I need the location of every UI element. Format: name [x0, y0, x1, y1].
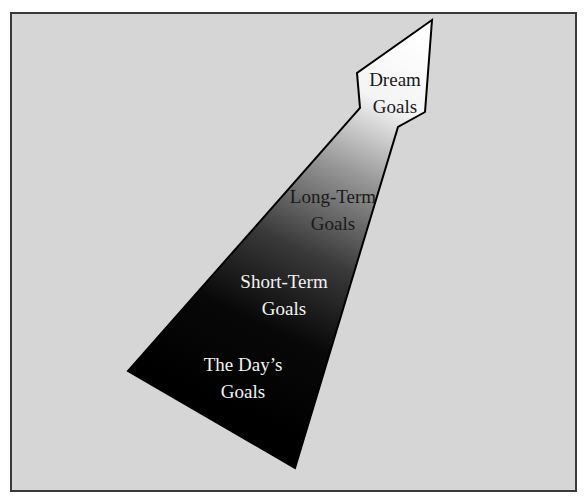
label-line-1: Dream: [369, 66, 421, 93]
goal-arrow-shape: [0, 0, 588, 504]
label-line-1: Short-Term: [240, 268, 327, 295]
label-line-2: Goals: [204, 378, 283, 405]
label-line-1: Long-Term: [290, 183, 376, 210]
label-line-2: Goals: [290, 210, 376, 237]
label-line-2: Goals: [369, 93, 421, 120]
dream-goals-label: Dream Goals: [369, 66, 421, 120]
label-line-2: Goals: [240, 295, 327, 322]
long-term-goals-label: Long-Term Goals: [290, 183, 376, 237]
short-term-goals-label: Short-Term Goals: [240, 268, 327, 322]
label-line-1: The Day’s: [204, 351, 283, 378]
days-goals-label: The Day’s Goals: [204, 351, 283, 405]
